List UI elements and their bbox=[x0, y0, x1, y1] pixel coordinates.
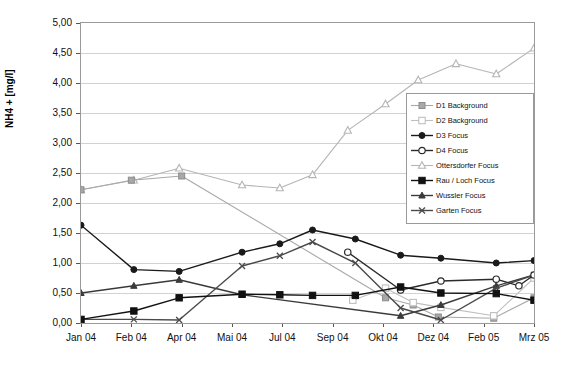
y-axis-tick-label: 4,00 bbox=[28, 78, 72, 88]
legend-marker-icon bbox=[410, 145, 434, 156]
legend-item-label: Rau / Loch Focus bbox=[436, 176, 495, 185]
y-axis-tick-label: 1,00 bbox=[28, 258, 72, 268]
series-d3-focus bbox=[81, 222, 534, 274]
y-axis-tick-label: 2,00 bbox=[28, 198, 72, 208]
y-axis-tick-label: 5,00 bbox=[28, 18, 72, 28]
legend-item-d1-background[interactable]: D1 Background bbox=[410, 98, 530, 113]
legend-item-label: D4 Focus bbox=[436, 146, 468, 155]
legend-marker-icon bbox=[410, 100, 434, 111]
legend-item-label: D2 Background bbox=[436, 116, 488, 125]
y-axis-tick-label: 4,50 bbox=[28, 48, 72, 58]
legend-item-label: D3 Focus bbox=[436, 131, 468, 140]
chart-container: NH4 + [mg/l] 0,000,501,001,502,002,503,0… bbox=[0, 0, 570, 365]
x-axis-tick-label: Mrz 05 bbox=[504, 333, 564, 343]
legend-item-d3-focus[interactable]: D3 Focus bbox=[410, 128, 530, 143]
legend-item-label: Ottersdorfer Focus bbox=[436, 161, 499, 170]
y-axis-tick-label: 0,50 bbox=[28, 288, 72, 298]
legend-item-label: D1 Background bbox=[436, 101, 488, 110]
legend-item-rau-loch-focus[interactable]: Rau / Loch Focus bbox=[410, 173, 530, 188]
y-axis-tick-label: 0,00 bbox=[28, 318, 72, 328]
legend-marker-icon bbox=[410, 175, 434, 186]
y-axis-tick-label: 2,50 bbox=[28, 168, 72, 178]
legend-item-label: Wussler Focus bbox=[436, 191, 485, 200]
legend-item-ottersdorfer-focus[interactable]: Ottersdorfer Focus bbox=[410, 158, 530, 173]
legend-marker-icon bbox=[410, 190, 434, 201]
legend-item-wussler-focus[interactable]: Wussler Focus bbox=[410, 188, 530, 203]
legend: D1 BackgroundD2 BackgroundD3 FocusD4 Foc… bbox=[406, 93, 534, 224]
y-axis-tick-label: 3,00 bbox=[28, 138, 72, 148]
legend-item-d2-background[interactable]: D2 Background bbox=[410, 113, 530, 128]
y-axis-tick-label: 1,50 bbox=[28, 228, 72, 238]
legend-marker-icon bbox=[410, 115, 434, 126]
legend-marker-icon bbox=[410, 205, 434, 216]
legend-item-d4-focus[interactable]: D4 Focus bbox=[410, 143, 530, 158]
legend-marker-icon bbox=[410, 130, 434, 141]
legend-item-label: Garten Focus bbox=[436, 206, 481, 215]
y-axis-label: NH4 + [mg/l] bbox=[4, 69, 15, 128]
y-axis-tick-label: 3,50 bbox=[28, 108, 72, 118]
legend-item-garten-focus[interactable]: Garten Focus bbox=[410, 203, 530, 218]
legend-marker-icon bbox=[410, 160, 434, 171]
